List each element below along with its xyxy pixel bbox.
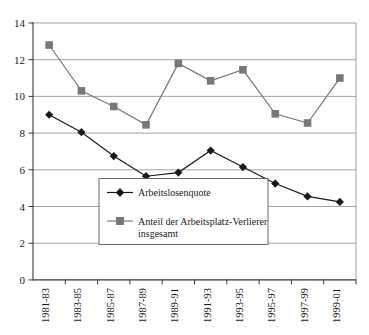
- series-joblosers: [45, 41, 343, 128]
- data-point-square: [304, 119, 312, 127]
- x-tick-label-1983-85: 1983-85: [72, 288, 83, 323]
- data-point-diamond: [77, 128, 85, 136]
- x-tick-label-1999-01: 1999-01: [331, 288, 342, 323]
- y-axis-labels: 14 12 10 8 6 4 2 0: [14, 17, 26, 286]
- legend-square-icon: [116, 217, 124, 225]
- y-tick-label-10: 10: [14, 90, 26, 102]
- series-line: [49, 45, 340, 125]
- x-tick-label-1991-93: 1991-93: [202, 288, 213, 323]
- x-tick-label-1993-95: 1993-95: [234, 288, 245, 323]
- x-axis-labels: 1981-831983-851985-871987-891989-911991-…: [40, 280, 356, 323]
- legend-label-joblosers-line1: Anteil der Arbeitsplatz-Verlierer: [138, 216, 268, 227]
- legend-label-joblosers-line2: insgesamt: [138, 228, 178, 239]
- chart-legend: Arbeitslosenquote Anteil der Arbeitsplat…: [99, 179, 268, 245]
- x-tick-label-1987-89: 1987-89: [137, 288, 148, 323]
- x-tick-label-1989-91: 1989-91: [169, 288, 180, 323]
- y-tick-label-0: 0: [20, 274, 26, 286]
- data-point-diamond: [207, 146, 215, 154]
- data-point-square: [336, 74, 344, 82]
- y-tick-label-14: 14: [14, 17, 26, 29]
- data-point-square: [271, 110, 279, 118]
- data-point-diamond: [271, 179, 279, 187]
- y-tick-label-12: 12: [14, 54, 25, 66]
- data-point-square: [239, 66, 247, 74]
- data-point-square: [45, 41, 53, 49]
- line-chart: 14 12 10 8 6 4 2 0 1981-831983-851985-87…: [0, 0, 369, 335]
- y-tick-label-2: 2: [20, 237, 26, 249]
- chart-container: 14 12 10 8 6 4 2 0 1981-831983-851985-87…: [0, 0, 369, 335]
- data-point-diamond: [303, 192, 311, 200]
- data-point-diamond: [336, 198, 344, 206]
- data-point-square: [142, 121, 150, 129]
- x-tick-label-1997-99: 1997-99: [299, 288, 310, 323]
- y-tick-label-4: 4: [20, 201, 26, 213]
- data-point-square: [78, 87, 86, 95]
- y-tick-marks: [29, 23, 34, 280]
- y-tick-label-6: 6: [20, 164, 26, 176]
- legend-label-unemployment: Arbeitslosenquote: [138, 187, 211, 198]
- y-tick-label-8: 8: [20, 127, 26, 139]
- data-point-diamond: [45, 111, 53, 119]
- data-point-diamond: [110, 152, 118, 160]
- x-tick-label-1981-83: 1981-83: [40, 288, 51, 323]
- data-point-square: [207, 77, 215, 85]
- x-tick-label-1985-87: 1985-87: [105, 288, 116, 323]
- data-point-square: [175, 60, 183, 68]
- data-point-square: [110, 103, 118, 111]
- x-tick-label-1995-97: 1995-97: [266, 288, 277, 323]
